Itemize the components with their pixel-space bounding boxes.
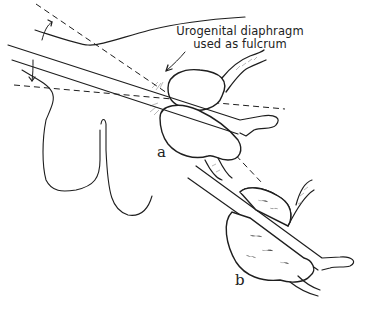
panel-label-b: b <box>235 271 245 289</box>
panel-label-a: a <box>157 143 166 161</box>
annotation-leader-line <box>166 52 185 71</box>
prostate-a <box>160 50 266 180</box>
anatomical-illustration: Urogenital diaphragm used as fulcrum a b <box>0 0 377 309</box>
penis-outline <box>101 120 152 216</box>
urogenital-diaphragm <box>150 82 163 115</box>
annotation-line-2: used as fulcrum <box>170 38 310 51</box>
sound-instrument-a <box>8 45 278 136</box>
scrotum-outline <box>22 70 100 191</box>
angle-arc-bottom <box>32 60 33 81</box>
urogenital-diaphragm-annotation: Urogenital diaphragm used as fulcrum <box>170 25 310 51</box>
angle-arc-top <box>42 22 52 40</box>
